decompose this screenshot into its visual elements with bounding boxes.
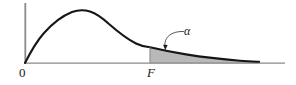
density-curve [25, 10, 259, 63]
critical-value-label: F [147, 66, 155, 79]
tail-area-label: α [184, 25, 190, 37]
f-distribution-figure: 0 F α [0, 0, 296, 85]
origin-label: 0 [19, 66, 26, 79]
leader-arrow-icon [165, 31, 184, 46]
